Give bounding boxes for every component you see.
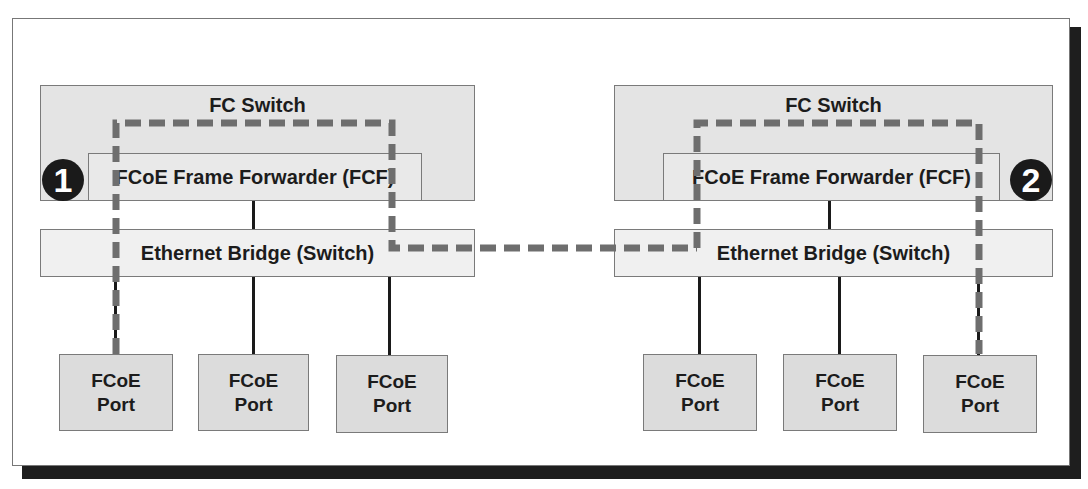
left-ethernet-bridge: Ethernet Bridge (Switch) bbox=[40, 229, 475, 277]
left-port-2-link bbox=[252, 277, 255, 354]
left-port-3-link bbox=[388, 277, 391, 355]
right-ethernet-bridge: Ethernet Bridge (Switch) bbox=[614, 229, 1053, 277]
port-label-line2: Port bbox=[961, 394, 999, 418]
right-fcf-label: FCoE Frame Forwarder (FCF) bbox=[692, 166, 971, 189]
port-label-line2: Port bbox=[373, 394, 411, 418]
right-port-2-link bbox=[838, 277, 841, 354]
left-port-2: FCoE Port bbox=[198, 354, 309, 431]
port-label-line1: FCoE bbox=[955, 370, 1005, 394]
badge-2-icon: 2 bbox=[1010, 159, 1052, 201]
left-bridge-label: Ethernet Bridge (Switch) bbox=[141, 242, 374, 265]
left-fcf-label: FCoE Frame Forwarder (FCF) bbox=[116, 166, 395, 189]
port-label-line1: FCoE bbox=[675, 369, 725, 393]
port-label-line2: Port bbox=[97, 393, 135, 417]
port-label-line1: FCoE bbox=[91, 369, 141, 393]
right-fcf-to-bridge-link bbox=[828, 201, 831, 229]
port-label-line2: Port bbox=[235, 393, 273, 417]
left-port-1-link bbox=[114, 277, 117, 354]
frame-shadow-bottom bbox=[22, 466, 1081, 479]
left-fcf-to-bridge-link bbox=[252, 201, 255, 229]
port-label-line1: FCoE bbox=[367, 370, 417, 394]
right-port-3: FCoE Port bbox=[923, 355, 1037, 433]
left-fc-switch-label: FC Switch bbox=[209, 94, 306, 117]
port-label-line1: FCoE bbox=[229, 369, 279, 393]
port-label-line1: FCoE bbox=[815, 369, 865, 393]
frame-shadow-right bbox=[1070, 27, 1081, 479]
right-port-1: FCoE Port bbox=[643, 354, 757, 431]
badge-1-icon: 1 bbox=[42, 159, 84, 201]
port-label-line2: Port bbox=[821, 393, 859, 417]
right-port-1-link bbox=[698, 277, 701, 354]
right-port-3-link bbox=[977, 277, 980, 355]
left-port-1: FCoE Port bbox=[59, 354, 173, 431]
right-fc-switch-label: FC Switch bbox=[785, 94, 882, 117]
port-label-line2: Port bbox=[681, 393, 719, 417]
left-fcf: FCoE Frame Forwarder (FCF) bbox=[88, 153, 422, 201]
right-bridge-label: Ethernet Bridge (Switch) bbox=[717, 242, 950, 265]
right-port-2: FCoE Port bbox=[783, 354, 897, 431]
right-fcf: FCoE Frame Forwarder (FCF) bbox=[663, 153, 1000, 201]
left-port-3: FCoE Port bbox=[336, 355, 448, 433]
